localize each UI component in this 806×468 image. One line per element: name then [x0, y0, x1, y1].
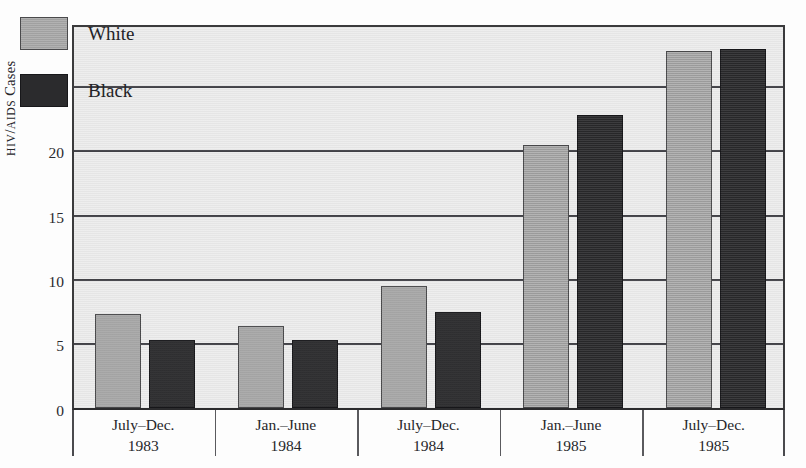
- y-axis-tick-label: 5: [34, 338, 64, 354]
- bar-black-5: [720, 49, 766, 408]
- x-axis-category-label: Jan.–June1984: [215, 410, 358, 457]
- x-axis-category-period: July–Dec.: [357, 415, 500, 436]
- legend-label-white: White: [88, 24, 134, 43]
- bar-white-2: [238, 326, 284, 408]
- y-axis-title-part-cases: Cases: [2, 61, 18, 100]
- x-axis-category-period: July–Dec.: [642, 415, 785, 436]
- y-axis-title-part-aids: AIDS: [5, 100, 18, 129]
- x-axis-category-label: July–Dec.1984: [357, 410, 500, 457]
- legend-item-white: White: [20, 5, 134, 62]
- x-axis-category-year: 1985: [642, 436, 785, 457]
- x-axis-category-year: 1983: [72, 436, 215, 457]
- bar-black-1: [149, 340, 195, 408]
- legend-item-black: Black: [20, 62, 134, 119]
- y-axis-tick-label: 20: [34, 145, 64, 161]
- chart-legend: White Black: [20, 5, 134, 119]
- bar-chart-figure: HIV/AIDS Cases 51015202530 White Black 0…: [0, 0, 806, 468]
- x-axis-category-label: July–Dec.1983: [72, 410, 215, 457]
- x-axis-category-period: July–Dec.: [72, 415, 215, 436]
- x-axis-group-separator: [215, 410, 217, 456]
- x-axis-group-separator: [642, 410, 644, 456]
- bar-white-5: [666, 51, 712, 408]
- legend-swatch-black-icon: [20, 74, 68, 107]
- legend-label-black: Black: [88, 81, 132, 100]
- y-axis-tick-label: 15: [34, 210, 64, 226]
- y-axis-tick-label: 10: [34, 274, 64, 290]
- x-axis-group-separator: [500, 410, 502, 456]
- bar-black-2: [292, 340, 338, 408]
- bar-white-1: [95, 314, 141, 408]
- legend-swatch-white-icon: [20, 17, 68, 50]
- x-axis-category-year: 1984: [215, 436, 358, 457]
- bar-black-3: [435, 312, 481, 408]
- bar-white-4: [523, 145, 569, 408]
- x-axis-group-separator: [357, 410, 359, 456]
- x-axis-category-year: 1984: [357, 436, 500, 457]
- y-axis-title-separator: /: [2, 129, 18, 133]
- y-axis-title-part-hiv: HIV: [5, 134, 18, 156]
- y-axis-zero-label: 0: [28, 402, 64, 420]
- plot-area: [72, 25, 785, 410]
- x-axis-category-period: Jan.–June: [500, 415, 643, 436]
- bar-black-4: [577, 115, 623, 408]
- bar-white-3: [381, 286, 427, 408]
- x-axis-category-label: Jan.–June1985: [500, 410, 643, 457]
- x-axis-category-labels: July–Dec.1983Jan.–June1984July–Dec.1984J…: [72, 410, 785, 468]
- x-axis-category-period: Jan.–June: [215, 415, 358, 436]
- x-axis-category-label: July–Dec.1985: [642, 410, 785, 457]
- x-axis-category-year: 1985: [500, 436, 643, 457]
